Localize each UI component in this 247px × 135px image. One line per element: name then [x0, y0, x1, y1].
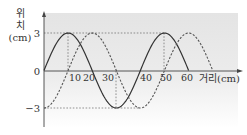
y-tick-3: 3 [34, 28, 40, 39]
x-tick-50: 50 [160, 72, 172, 83]
x-tick-40: 40 [140, 72, 152, 83]
y-axis-label-3: (cm) [9, 32, 32, 43]
x-tick-20: 20 [83, 72, 95, 83]
y-axis-label-1: 위 [16, 7, 25, 19]
y-tick-0: 0 [34, 66, 40, 77]
y-axis-label-2: 치 [16, 20, 25, 31]
x-axis-label: 거리(cm) [199, 73, 240, 84]
x-tick-10: 10 [69, 72, 81, 83]
wave-graph: 위 치 (cm) 3 0 −3 10 20 30 40 50 60 거리(cm) [0, 0, 247, 135]
x-tick-60: 60 [181, 72, 193, 83]
y-tick-neg3: −3 [25, 103, 40, 114]
x-tick-30: 30 [102, 72, 114, 83]
